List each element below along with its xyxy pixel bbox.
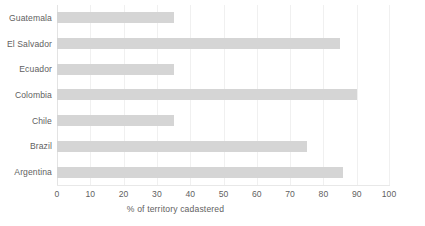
- x-axis-line: [57, 185, 390, 186]
- x-tick-label-70: 70: [285, 189, 295, 199]
- bars-layer: [57, 5, 390, 185]
- plot-area: [57, 5, 390, 185]
- x-tick-label-40: 40: [185, 189, 195, 199]
- bar-row: [57, 159, 343, 185]
- y-tick-label-argentina: Argentina: [0, 167, 52, 177]
- x-axis-labels: 0 10 20 30 40 50 60 70 80 90 100: [57, 189, 390, 203]
- y-tick-label-el-salvador: El Salvador: [0, 39, 52, 49]
- x-axis-title: % of territory cadastered: [127, 204, 224, 214]
- x-axis-title-wrap: % of territory cadastered: [0, 204, 425, 214]
- bar-row: [57, 31, 340, 57]
- x-tick-label-50: 50: [219, 189, 229, 199]
- bar-row: [57, 82, 357, 108]
- y-tick-label-guatemala: Guatemala: [0, 13, 52, 23]
- bar-argentina[interactable]: [57, 167, 343, 178]
- y-tick-label-brazil: Brazil: [0, 141, 52, 151]
- bar-row: [57, 134, 307, 160]
- bar-el-salvador[interactable]: [57, 38, 340, 49]
- x-tick-label-0: 0: [55, 189, 60, 199]
- x-tick-label-30: 30: [152, 189, 162, 199]
- y-tick-label-colombia: Colombia: [0, 90, 52, 100]
- bar-chile[interactable]: [57, 115, 174, 126]
- bar-row: [57, 56, 174, 82]
- x-tick-label-90: 90: [352, 189, 362, 199]
- y-axis-labels: Guatemala El Salvador Ecuador Colombia C…: [0, 5, 52, 185]
- bar-row: [57, 108, 174, 134]
- x-tick-label-100: 100: [382, 189, 396, 199]
- bar-ecuador[interactable]: [57, 64, 174, 75]
- y-tick-label-ecuador: Ecuador: [0, 64, 52, 74]
- x-tick-label-20: 20: [119, 189, 129, 199]
- x-tick-label-60: 60: [252, 189, 262, 199]
- x-tick-label-10: 10: [86, 189, 96, 199]
- bar-colombia[interactable]: [57, 89, 357, 100]
- bar-brazil[interactable]: [57, 141, 307, 152]
- y-tick-label-chile: Chile: [0, 116, 52, 126]
- bar-guatemala[interactable]: [57, 12, 174, 23]
- bar-chart: Guatemala El Salvador Ecuador Colombia C…: [0, 0, 425, 226]
- bar-row: [57, 5, 174, 31]
- x-tick-label-80: 80: [319, 189, 329, 199]
